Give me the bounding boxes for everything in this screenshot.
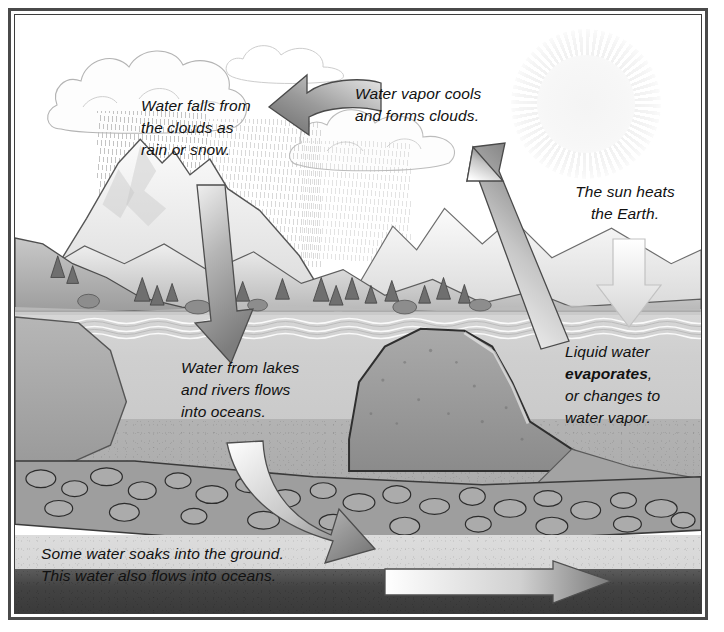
label-solar: The sun heats the Earth. — [545, 181, 701, 225]
diagram-frame: Water falls from the clouds as rain or s… — [8, 8, 708, 620]
groundwater-arrow — [383, 561, 613, 605]
label-condensation: Water vapor cools and forms clouds. — [355, 83, 540, 127]
precipitation-arrow — [181, 183, 263, 365]
label-groundwater: Some water soaks into the ground. This w… — [41, 543, 371, 587]
label-runoff: Water from lakes and rivers flows into o… — [181, 357, 361, 423]
diagram-frame-inner: Water falls from the clouds as rain or s… — [14, 14, 702, 614]
label-evaporation-term: evaporates — [565, 365, 648, 382]
label-precipitation: Water falls from the clouds as rain or s… — [141, 95, 316, 161]
water-cycle-diagram-page: Water falls from the clouds as rain or s… — [0, 0, 724, 632]
solar-arrow — [593, 237, 665, 329]
label-evaporation-part1: Liquid water — [565, 343, 650, 360]
label-evaporation: Liquid water evaporates, or changes to w… — [565, 341, 701, 429]
evaporation-arrow — [465, 137, 581, 349]
diagram-scene: Water falls from the clouds as rain or s… — [15, 15, 701, 613]
